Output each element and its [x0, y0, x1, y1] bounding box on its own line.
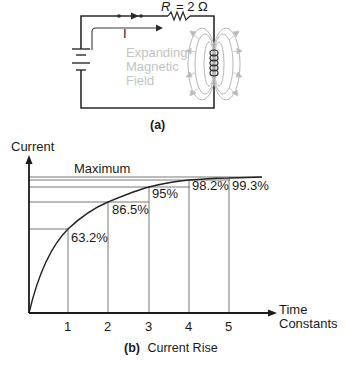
value-label-4: 98.2%	[192, 178, 229, 193]
x-axis-label-line2: Constants	[279, 316, 338, 331]
y-axis-arrow-icon	[26, 155, 33, 164]
value-label-3: 95%	[152, 186, 178, 201]
resistor-label-value: = 2 Ω	[176, 0, 208, 14]
circuit-diagram: R = 2 Ω I Expanding Magnetic Field	[72, 0, 242, 132]
svg-text:2: 2	[104, 319, 111, 334]
svg-text:1: 1	[64, 319, 71, 334]
x-axis-arrow-icon	[268, 310, 277, 317]
field-label: Expanding Magnetic Field	[126, 45, 187, 88]
svg-text:Field: Field	[126, 73, 154, 88]
current-curve	[29, 177, 262, 313]
svg-text:5: 5	[225, 319, 232, 334]
x-tick-labels: 1 2 3 4 5	[64, 319, 232, 334]
resistor-label-symbol: R	[161, 0, 170, 14]
value-label-1: 63.2%	[71, 230, 108, 245]
svg-text:4: 4	[185, 319, 192, 334]
y-axis-label: Current	[11, 139, 55, 154]
svg-text:3: 3	[145, 319, 152, 334]
value-label-5: 99.3%	[232, 178, 269, 193]
caption-a: (a)	[150, 118, 165, 132]
svg-text:Expanding: Expanding	[126, 45, 187, 60]
figure: R = 2 Ω I Expanding Magnetic Field	[0, 0, 345, 369]
caption-b: (b) Current Rise	[124, 341, 218, 355]
current-rise-chart: Current Maximum 63.2% 86.5%	[11, 139, 338, 355]
svg-text:Magnetic: Magnetic	[126, 59, 179, 74]
current-label: I	[123, 26, 127, 41]
battery-icon	[72, 49, 90, 70]
value-label-2: 86.5%	[112, 202, 149, 217]
svg-text:R = 2 Ω: R = 2 Ω	[161, 0, 208, 14]
time-constant-lines	[68, 178, 229, 313]
maximum-label: Maximum	[74, 161, 130, 176]
x-axis-label-line1: Time	[279, 302, 307, 317]
